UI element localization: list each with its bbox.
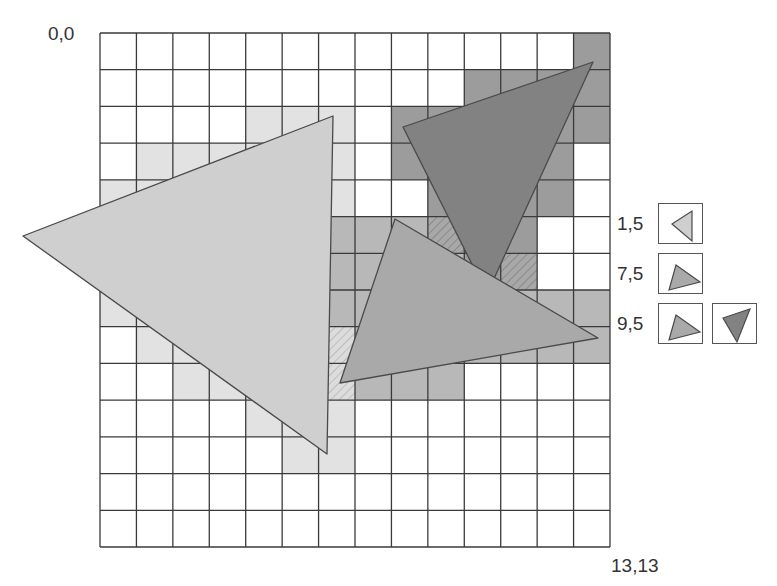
grid-cell [574,290,610,327]
dark-triangle-icon [713,304,758,345]
legend-swatch [712,303,757,344]
legend-swatch [658,253,703,294]
grid-cell [173,363,209,400]
grid-cell [428,363,464,400]
grid-cell [574,106,610,143]
legend-swatch [658,303,703,344]
legend-label: 1,5 [617,214,643,233]
legend-label: 9,5 [617,314,643,333]
legend-swatch [658,203,703,244]
legend-label: 7,5 [617,264,643,283]
grid-cell [537,180,573,217]
origin-label: 0,0 [48,24,74,43]
grid-cell [136,143,172,180]
light-triangle-icon [659,204,704,245]
medium-triangle-icon [659,304,704,345]
corner-label: 13,13 [611,556,659,575]
medium-triangle-icon [659,254,704,295]
